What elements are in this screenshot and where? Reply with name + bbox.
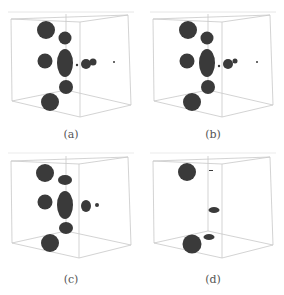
caption-d: (d) [142,273,284,286]
panel-b: (b) [142,0,284,147]
panel-a: (a) [0,0,142,147]
panel-c: (c) [0,148,142,295]
cube-render-a [0,0,142,147]
caption-b: (b) [142,128,284,141]
caption-a: (a) [0,128,142,141]
panel-d: (d) [142,148,284,295]
caption-c: (c) [0,273,142,286]
cube-render-b [142,0,284,147]
